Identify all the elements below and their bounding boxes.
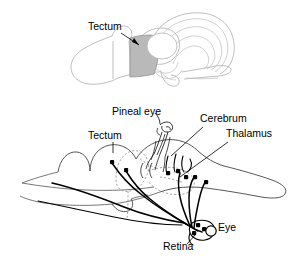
eyeball-circle (206, 226, 216, 236)
ventricle-ellipse (147, 33, 177, 59)
label-thalamus: Thalamus (226, 127, 272, 139)
retinal-projection-tracts (38, 163, 206, 232)
label-eye: Eye (218, 221, 236, 233)
pineal-organ (146, 122, 173, 172)
label-tectum-top: Tectum (88, 20, 122, 32)
soma-thalamus-5 (204, 180, 208, 184)
label-cerebrum: Cerebrum (200, 112, 247, 124)
bottom-panel-sagittal-section: Pineal eye Cerebrum Thalamus Tectum Reti… (0, 101, 300, 261)
soma-tectum-2 (124, 168, 128, 172)
anatomical-figure: Tectum (0, 0, 300, 261)
label-pineal-eye: Pineal eye (112, 105, 161, 117)
soma-thalamus-2 (176, 169, 180, 173)
soma-thalamus-1 (166, 171, 170, 175)
soma-thalamus-4 (193, 175, 197, 179)
soma-retina-1 (196, 223, 200, 227)
label-tectum-bottom: Tectum (88, 129, 122, 141)
soma-tectum-1 (110, 160, 114, 164)
top-panel-dorsal-brain-view: Tectum (0, 0, 300, 110)
soma-thalamus-3 (184, 175, 188, 179)
label-retina: Retina (163, 240, 194, 252)
leader-thalamus (180, 142, 228, 177)
